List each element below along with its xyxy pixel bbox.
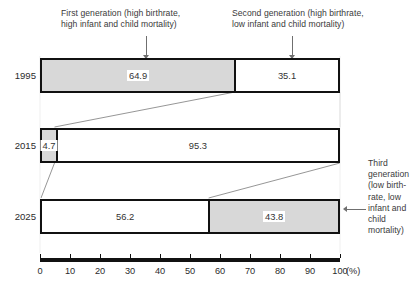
bar-segment-1995-second-generation: 35.1 bbox=[234, 60, 338, 91]
bar-2025: 56.2 43.8 bbox=[40, 199, 340, 234]
bar-1995: 64.9 35.1 bbox=[40, 58, 340, 93]
axis-tick bbox=[190, 254, 191, 258]
bar-segment-2025-third-generation: 43.8 bbox=[208, 201, 338, 232]
axis-tick-label: 90 bbox=[305, 266, 315, 276]
axis-tick-label: 40 bbox=[155, 266, 165, 276]
axis-tick-label: 50 bbox=[185, 266, 195, 276]
annotation-third-generation: Third generation (low birth- rate, low i… bbox=[368, 158, 416, 236]
axis-tick bbox=[70, 254, 71, 258]
leader-arrow-third-generation bbox=[343, 206, 347, 212]
axis-tick bbox=[160, 254, 161, 258]
axis-tick-label: 80 bbox=[275, 266, 285, 276]
axis-tick bbox=[340, 254, 341, 258]
axis-tick bbox=[130, 254, 131, 258]
bar-value-2025-third-generation: 43.8 bbox=[263, 211, 285, 222]
annotation-second-generation: Second generation (high birthrate, low i… bbox=[232, 8, 402, 31]
bar-value-2015-first-generation: 4.7 bbox=[40, 140, 57, 151]
bar-segment-2015-second-generation: 95.3 bbox=[56, 130, 338, 161]
bar-segment-2025-second-generation: 56.2 bbox=[42, 201, 208, 232]
leader-line-third-generation bbox=[347, 209, 366, 210]
year-label-1995: 1995 bbox=[2, 70, 36, 81]
leader-line-second-generation bbox=[292, 36, 293, 56]
leader-line-first-generation bbox=[146, 36, 147, 56]
axis-tick bbox=[280, 254, 281, 258]
bar-value-2015-second-generation: 95.3 bbox=[187, 140, 209, 151]
axis-tick-label: 30 bbox=[125, 266, 135, 276]
axis-tick-label: 60 bbox=[215, 266, 225, 276]
axis-unit-label: (%) bbox=[346, 266, 360, 276]
population-pyramid-generations-chart: First generation (high birthrate, high i… bbox=[0, 0, 417, 292]
bar-2015: 4.7 95.3 bbox=[40, 128, 340, 163]
bar-segment-2015-first-generation: 4.7 bbox=[42, 130, 56, 161]
axis-tick bbox=[100, 254, 101, 258]
axis-line bbox=[40, 258, 340, 262]
axis-tick bbox=[220, 254, 221, 258]
axis-tick-label: 10 bbox=[65, 266, 75, 276]
axis-tick bbox=[250, 254, 251, 258]
axis-tick-label: 20 bbox=[95, 266, 105, 276]
bar-value-1995-first-generation: 64.9 bbox=[127, 70, 149, 81]
year-label-2025: 2025 bbox=[2, 211, 36, 222]
year-label-2015: 2015 bbox=[2, 140, 36, 151]
bar-segment-1995-first-generation: 64.9 bbox=[42, 60, 234, 91]
bar-value-1995-second-generation: 35.1 bbox=[276, 70, 298, 81]
annotation-first-generation: First generation (high birthrate, high i… bbox=[61, 8, 221, 31]
bar-value-2025-second-generation: 56.2 bbox=[114, 211, 136, 222]
axis-tick-label: 0 bbox=[37, 266, 42, 276]
axis-tick bbox=[310, 254, 311, 258]
axis-tick bbox=[40, 254, 41, 258]
axis-tick-label: 70 bbox=[245, 266, 255, 276]
